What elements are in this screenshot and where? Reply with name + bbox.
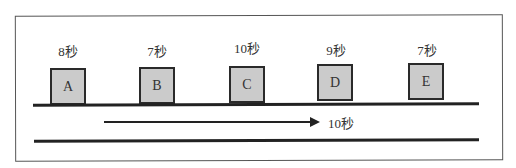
arrow-shaft — [104, 121, 312, 123]
box-d: D — [317, 64, 353, 101]
time-label-c: 10秒 — [222, 38, 272, 57]
time-label-a: 8秒 — [43, 41, 93, 60]
time-label-e: 7秒 — [402, 40, 452, 59]
time-label-b: 7秒 — [132, 41, 182, 60]
time-label-d: 9秒 — [311, 40, 361, 59]
arrow-time-label: 10秒 — [316, 113, 366, 132]
box-b: B — [139, 67, 175, 104]
box-a: A — [50, 68, 86, 105]
box-c: C — [229, 66, 265, 103]
box-e: E — [408, 63, 444, 100]
